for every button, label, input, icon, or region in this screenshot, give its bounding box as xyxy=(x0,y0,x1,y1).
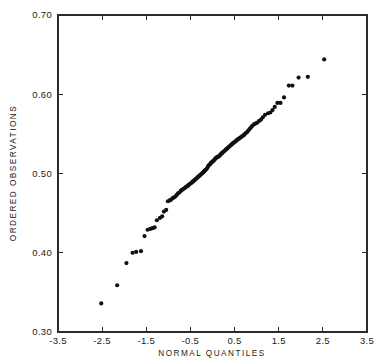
x-tick-label: -1.5 xyxy=(137,335,155,346)
data-point xyxy=(273,105,277,109)
data-point xyxy=(296,76,300,80)
data-point xyxy=(142,234,146,238)
data-point xyxy=(115,283,119,287)
data-point xyxy=(290,83,294,87)
x-tick-label: 0.5 xyxy=(228,335,242,346)
data-point xyxy=(278,101,282,105)
data-point xyxy=(131,251,135,255)
qq-plot-figure: -3.5-2.5-1.5-0.50.51.52.53.5 0.300.400.5… xyxy=(0,0,374,361)
x-tick-label: 2.5 xyxy=(316,335,330,346)
y-tick-label: 0.60 xyxy=(32,89,52,100)
y-tick-label: 0.70 xyxy=(32,9,52,20)
y-axis-ticks xyxy=(58,94,367,253)
y-axis-title: ORDERED OBSERVATIONS xyxy=(9,105,18,241)
data-point xyxy=(282,95,286,99)
data-point xyxy=(139,249,143,253)
data-point xyxy=(124,261,128,265)
y-tick-label: 0.50 xyxy=(32,168,52,179)
x-tick-label: -0.5 xyxy=(182,335,200,346)
scatter-points xyxy=(99,57,326,305)
x-tick-label: -2.5 xyxy=(93,335,111,346)
plot-frame xyxy=(58,15,367,332)
y-tick-label: 0.30 xyxy=(32,326,52,337)
x-tick-label: 3.5 xyxy=(360,335,374,346)
x-axis-title: NORMAL QUANTILES xyxy=(158,349,265,358)
y-axis-tick-labels: 0.300.400.500.600.70 xyxy=(32,9,52,337)
plot-canvas: -3.5-2.5-1.5-0.50.51.52.53.5 0.300.400.5… xyxy=(0,0,374,361)
data-point xyxy=(306,75,310,79)
y-tick-label: 0.40 xyxy=(32,247,52,258)
data-point xyxy=(322,57,326,61)
data-point xyxy=(160,214,164,218)
x-tick-label: 1.5 xyxy=(272,335,286,346)
x-axis-ticks xyxy=(102,15,323,332)
x-axis-tick-labels: -3.5-2.5-1.5-0.50.51.52.53.5 xyxy=(49,335,374,346)
data-point xyxy=(99,301,103,305)
data-point xyxy=(164,208,168,212)
data-point xyxy=(153,225,157,229)
data-point xyxy=(134,250,138,254)
